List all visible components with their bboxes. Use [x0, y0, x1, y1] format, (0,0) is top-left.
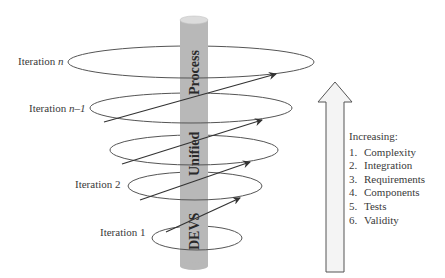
- iteration-1-label: Iteration 1: [100, 226, 146, 238]
- iteration-n-minus-1-label: Iteration n–1: [29, 102, 86, 114]
- legend-item: 5.Tests: [349, 200, 425, 214]
- cylinder-label-process: Process: [187, 50, 202, 95]
- increasing-arrow-icon: [318, 82, 352, 272]
- cylinder-label-unified: Unified: [187, 131, 202, 176]
- legend-item: 2.Integration: [349, 159, 425, 173]
- iteration-2-label: Iteration 2: [75, 178, 121, 190]
- iteration-n-label: Iteration n: [18, 55, 64, 67]
- cylinder-label-devs: DEVS: [187, 212, 202, 250]
- spiral-diagram: Process Unified DEVS Iteration n Iterati…: [0, 0, 445, 278]
- legend-item: 1.Complexity: [349, 146, 425, 160]
- legend-item: 4.Components: [349, 186, 425, 200]
- increasing-legend: Increasing: 1.Complexity 2.Integration 3…: [349, 130, 425, 227]
- legend-item: 3.Requirements: [349, 173, 425, 187]
- legend-item: 6.Validity: [349, 214, 425, 228]
- legend-title: Increasing:: [349, 130, 425, 144]
